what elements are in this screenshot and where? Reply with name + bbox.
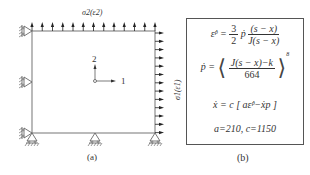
equation-plastic-strain-rate: ε̇ᵖ = 3 2 ṗ (s − x) J(s − x) xyxy=(187,23,303,46)
top-load-label: σ2(ε2) xyxy=(82,8,103,17)
axis-2-label: 2 xyxy=(92,54,97,64)
right-load-arrows xyxy=(155,31,164,134)
caption-a: (a) xyxy=(87,152,97,162)
equation-constants: a=210, c=1150 xyxy=(187,123,303,134)
equations-box: ε̇ᵖ = 3 2 ṗ (s − x) J(s − x) ṗ = ⟨ J(s −… xyxy=(186,18,304,145)
equation-plastic-multiplier: ṗ = ⟨ J(s − x)−k 664 ⟩8 xyxy=(187,55,303,81)
top-load-arrows xyxy=(30,22,156,31)
loaded-plate-diagram: 2 1 σ2(ε2) σ1(ε1) (a) xyxy=(0,0,185,175)
bottom-roller-supports xyxy=(25,133,162,146)
axis-1-label: 1 xyxy=(121,76,126,86)
right-load-label: σ1(ε1) xyxy=(173,79,182,100)
caption-b: (b) xyxy=(237,152,249,163)
left-roller-supports xyxy=(19,25,32,139)
equation-backstress-rate: ẋ = c [ aε̇ᵖ−ẋp ] xyxy=(187,99,303,110)
